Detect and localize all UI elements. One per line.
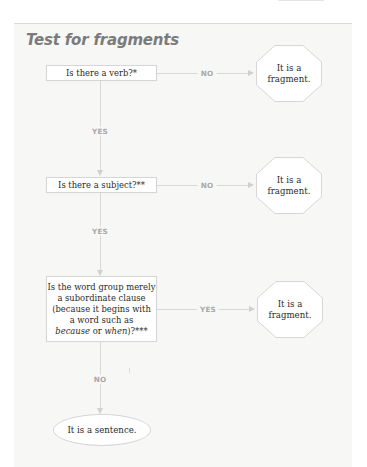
q1-no-label: NO — [198, 69, 217, 78]
q3-line1: Is the word group merely — [48, 282, 156, 292]
result-fragment-3: It is a fragment. — [257, 281, 323, 338]
q2-no-label: NO — [198, 181, 217, 190]
question-subject-text: Is there a subject?** — [58, 180, 145, 191]
q3-yes-label: YES — [197, 305, 219, 314]
question-subordinate-box: Is the word group merely a subordinate c… — [46, 276, 157, 342]
result-2-line2: fragment. — [268, 186, 311, 197]
q3-example-because: because — [55, 326, 90, 336]
question-verb-box: Is there a verb?* — [46, 65, 157, 81]
result-1-line1: It is a — [277, 63, 302, 74]
result-fragment-1: It is a fragment. — [256, 45, 322, 102]
result-2-line1: It is a — [277, 175, 302, 186]
stray-mark — [129, 368, 130, 373]
result-3-line1: It is a — [278, 299, 303, 310]
q3-line2: a subordinate clause — [57, 293, 145, 303]
q3-end: )?*** — [127, 326, 147, 336]
result-fragment-2: It is a fragment. — [256, 157, 322, 214]
result-3-line2: fragment. — [269, 310, 312, 321]
q3-line4: a word such as — [70, 315, 134, 325]
q3-line3: (because it begins with — [52, 304, 151, 314]
q2-yes-label: YES — [89, 227, 111, 236]
top-tab-edge — [278, 0, 324, 1]
q3-example-when: when — [104, 326, 127, 336]
q3-no-label: NO — [91, 375, 110, 384]
question-verb-text: Is there a verb?* — [66, 68, 137, 79]
q3-or: or — [90, 326, 104, 336]
result-sentence-text: It is a sentence. — [67, 425, 136, 435]
result-1-line2: fragment. — [268, 74, 311, 85]
q1-yes-label: YES — [89, 127, 111, 136]
arrow-down-icon — [97, 170, 103, 176]
arrow-right-icon — [248, 182, 254, 188]
arrow-right-icon — [248, 70, 254, 76]
result-sentence: It is a sentence. — [53, 414, 151, 446]
question-subject-box: Is there a subject?** — [46, 177, 157, 193]
diagram-title: Test for fragments — [26, 31, 179, 49]
arrow-right-icon — [249, 306, 255, 312]
